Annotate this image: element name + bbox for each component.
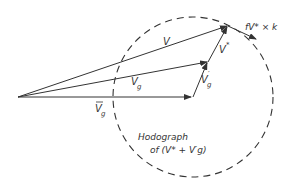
label-vg-prime-sub: g [207,81,212,89]
vector-vg [18,62,207,97]
label-vg-bar-sub: g [101,110,106,118]
vector-diagram: V V g V g V g ′ V * fV* × k Hodograph of… [0,0,289,185]
label-vg-sub: g [137,83,142,91]
label-hodograph-expr: of (V* + V′g) [150,145,206,155]
label-v: V [163,36,171,47]
label-v-star-mark: * [226,41,230,49]
label-coriolis: fV* × k [245,22,278,32]
label-vg-prime-mark: ′ [208,70,210,78]
vector-v [18,26,227,97]
label-hodograph-title: Hodograph [138,132,188,142]
